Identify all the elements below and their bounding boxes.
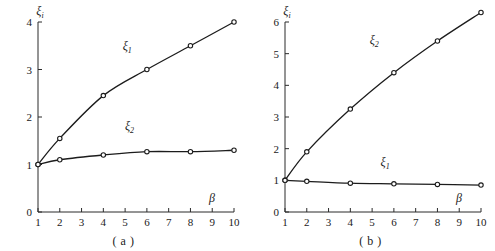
curve-label: ξ2	[370, 33, 379, 49]
x-tick-label: 8	[188, 216, 194, 228]
x-tick-label: 5	[369, 216, 375, 228]
y-tick-label: 3	[274, 111, 280, 123]
data-point-marker	[145, 67, 149, 71]
x-tick-label: 8	[435, 216, 441, 228]
y-tick-label: 1	[274, 174, 280, 186]
x-tick-label: 2	[57, 216, 63, 228]
data-point-marker	[188, 44, 192, 48]
curve-label: ξ2	[125, 119, 134, 135]
figure-two-panel-line-charts: 0123412345678910ξiβξ1ξ2 ( a ) 0123456123…	[0, 0, 495, 251]
chart-b-canvas: 012345612345678910ξiβξ2ξ1	[247, 0, 494, 251]
data-point-marker	[392, 182, 396, 186]
data-point-marker	[392, 70, 396, 74]
y-tick-label: 0	[274, 206, 280, 218]
data-point-marker	[58, 158, 62, 162]
data-point-marker	[101, 93, 105, 97]
data-point-marker	[58, 136, 62, 140]
y-tick-label: 2	[274, 143, 280, 155]
x-tick-label: 4	[101, 216, 107, 228]
x-tick-label: 10	[476, 216, 488, 228]
x-axis-label: β	[208, 191, 215, 205]
x-tick-label: 4	[348, 216, 354, 228]
data-point-marker	[36, 162, 40, 166]
panel-b-caption: ( b )	[247, 234, 494, 249]
x-tick-label: 2	[304, 216, 310, 228]
y-tick-label: 6	[274, 16, 280, 28]
x-tick-label: 6	[391, 216, 397, 228]
x-tick-label: 3	[326, 216, 332, 228]
y-tick-label: 5	[274, 48, 280, 60]
y-tick-label: 0	[27, 206, 33, 218]
data-point-marker	[232, 20, 236, 24]
data-point-marker	[305, 179, 309, 183]
y-axis-label: ξi	[283, 4, 290, 20]
x-tick-label: 7	[413, 216, 419, 228]
panel-b: 012345612345678910ξiβξ2ξ1 ( b )	[247, 0, 494, 251]
y-tick-label: 4	[274, 79, 280, 91]
data-curve	[38, 22, 234, 165]
x-tick-label: 5	[122, 216, 128, 228]
data-point-marker	[479, 10, 483, 14]
x-tick-label: 9	[456, 216, 462, 228]
chart-a-canvas: 0123412345678910ξiβξ1ξ2	[0, 0, 247, 251]
data-point-marker	[348, 107, 352, 111]
data-point-marker	[305, 150, 309, 154]
data-point-marker	[348, 181, 352, 185]
x-tick-label: 7	[166, 216, 172, 228]
data-point-marker	[283, 178, 287, 182]
x-tick-label: 6	[144, 216, 150, 228]
y-tick-label: 2	[27, 111, 33, 123]
y-tick-label: 3	[27, 64, 33, 76]
y-tick-label: 1	[27, 159, 33, 171]
curve-label: ξ1	[123, 39, 132, 55]
data-point-marker	[479, 183, 483, 187]
x-axis-label: β	[455, 191, 462, 205]
data-point-marker	[101, 153, 105, 157]
y-tick-label: 4	[27, 16, 33, 28]
data-curve	[38, 150, 234, 164]
x-tick-label: 3	[79, 216, 85, 228]
y-axis-label: ξi	[36, 4, 43, 20]
data-point-marker	[232, 148, 236, 152]
data-point-marker	[435, 39, 439, 43]
data-curve	[285, 180, 481, 185]
x-tick-label: 1	[282, 216, 288, 228]
x-tick-label: 9	[209, 216, 215, 228]
x-tick-label: 1	[35, 216, 41, 228]
panel-a-caption: ( a )	[0, 234, 247, 249]
data-point-marker	[145, 149, 149, 153]
data-point-marker	[435, 182, 439, 186]
x-tick-label: 10	[229, 216, 241, 228]
curve-label: ξ1	[381, 155, 390, 171]
panel-a: 0123412345678910ξiβξ1ξ2 ( a )	[0, 0, 247, 251]
data-point-marker	[188, 149, 192, 153]
